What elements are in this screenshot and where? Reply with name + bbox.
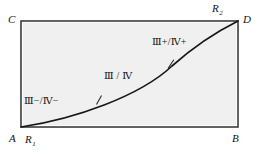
vertex-label-d: D: [243, 14, 251, 25]
region-label-upper-right: Ⅲ+/Ⅳ+: [152, 37, 187, 47]
vertex-c-text: C: [8, 13, 15, 25]
vertex-label-c: C: [8, 14, 15, 25]
vertex-label-b: B: [232, 133, 239, 144]
vertex-b-text: B: [232, 132, 239, 144]
point-r1-subscript: 1: [32, 140, 36, 148]
vertex-a-text: A: [9, 132, 16, 144]
point-r2-text: R: [212, 2, 219, 14]
point-label-r1: R1: [25, 134, 36, 150]
point-r1-text: R: [25, 133, 32, 145]
region-label-middle: Ⅲ / Ⅳ: [104, 71, 132, 81]
point-r2-subscript: 2: [219, 9, 223, 17]
vertex-label-a: A: [9, 133, 16, 144]
vertex-d-text: D: [243, 13, 251, 25]
region-label-lower-left: Ⅲ−/Ⅳ−: [24, 96, 59, 106]
point-label-r2: R2: [212, 3, 223, 19]
